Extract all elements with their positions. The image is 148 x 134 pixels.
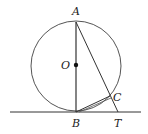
chord-bc-inner <box>79 98 111 112</box>
secant-at <box>76 22 118 112</box>
center-point-o <box>74 63 78 67</box>
label-t: T <box>114 117 123 130</box>
label-o: O <box>61 59 70 72</box>
label-b: B <box>71 117 80 130</box>
label-a: A <box>71 5 80 18</box>
label-c: C <box>113 91 122 104</box>
geometry-diagram: A O C B T <box>0 0 148 134</box>
chord-bc <box>76 96 110 112</box>
